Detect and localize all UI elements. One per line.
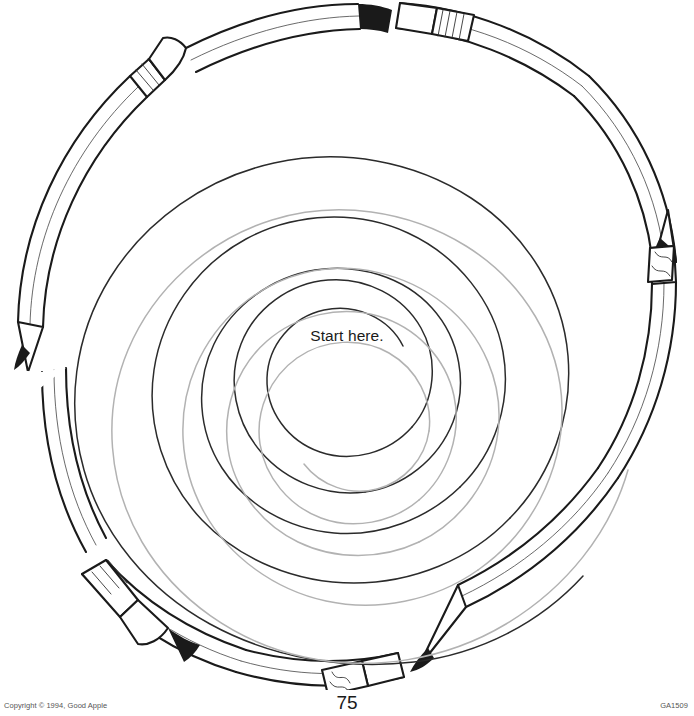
light-spiral-turn-3 [227,312,457,556]
dark-spiral-turn-3 [202,268,461,533]
pencil-5-ferrule-band [648,246,674,282]
worksheet-page: Start here. Copyright © 1994, Good Apple… [0,0,694,716]
pencil-ring-border [14,3,676,690]
pencil-4-inner-edge [574,96,653,266]
dark-spiral-turn-1 [75,157,583,664]
pencil-2-inner-edge [196,29,360,72]
publisher-code: GA1509 [660,701,688,710]
pencil-1-inner-edge [43,97,147,327]
pencil-2-graphite-tip [358,4,392,33]
page-footer: Copyright © 1994, Good Apple 75 GA1509 [0,682,694,716]
light-spiral-turn-1 [112,210,628,663]
pencil-2 [186,4,392,72]
pencil-8b-wood [14,368,66,396]
pencil-4 [574,76,676,266]
light-spiral-turn-4 [259,342,430,524]
maze-dark-spiral [75,157,583,664]
pencil-4-facet-line [582,86,665,264]
pencil-3-eraser [396,3,437,34]
pencil-3-inner-edge [396,28,574,96]
pencil-8-junction [14,368,106,552]
pencil-1 [14,37,186,372]
pencil-5-facet-line [608,283,664,473]
light-spiral-turn-5 [304,431,429,491]
maze-illustration [0,0,694,690]
maze-light-spiral [112,210,628,663]
pencil-5-outer-edge [618,282,676,478]
maze-svg [0,0,694,690]
pencil-5 [598,246,676,478]
pencil-6 [410,468,618,672]
pencil-5-inner-edge [598,284,652,468]
dark-spiral-turn-5 [267,308,412,456]
dark-spiral-turn-2 [152,217,510,583]
pencil-2-facet-line [191,16,359,60]
page-number: 75 [0,692,694,714]
pencil-6-outer-edge [466,478,618,607]
pencil-8 [82,560,246,672]
pencil-3 [396,3,589,96]
